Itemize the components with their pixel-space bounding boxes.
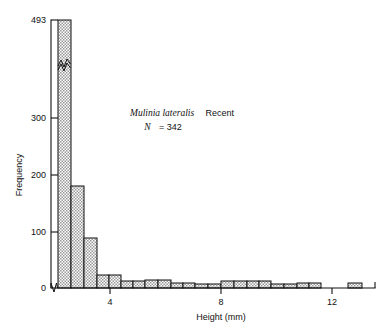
x-axis: 4 8 12 Height (mm)	[58, 282, 375, 322]
y-tick-label-493: 493	[31, 15, 46, 25]
annotation-species-line: Mulinia lateralis Recent	[129, 102, 235, 119]
bar	[195, 284, 208, 288]
chart-annotation: Mulinia lateralis Recent N = 342	[129, 102, 235, 133]
annotation-n-line: N = 342	[143, 116, 182, 133]
y-tick-label-200: 200	[31, 170, 46, 180]
y-axis: 0 100 200 300 493 Frequency	[14, 15, 58, 293]
bar	[259, 281, 271, 288]
y-tick-label-0: 0	[41, 283, 46, 293]
bar	[158, 280, 171, 288]
bar	[297, 283, 309, 288]
bar	[208, 284, 221, 288]
bar	[97, 275, 109, 288]
histogram-figure: 0 100 200 300 493 Frequency 4 8 12 Heigh…	[0, 0, 385, 325]
y-tick-label-300: 300	[31, 113, 46, 123]
bar	[309, 283, 321, 288]
bar	[221, 281, 234, 288]
bar	[171, 283, 183, 288]
y-axis-title: Frequency	[14, 153, 24, 196]
annotation-n-symbol: N	[143, 122, 151, 132]
x-tick-label-8: 8	[218, 297, 223, 307]
bar	[133, 281, 145, 288]
bars-group	[58, 20, 362, 288]
x-tick-label-12: 12	[327, 297, 337, 307]
annotation-age: Recent	[206, 108, 235, 118]
x-tick-label-4: 4	[107, 297, 112, 307]
annotation-n-value: = 342	[159, 122, 182, 132]
y-tick-label-100: 100	[31, 227, 46, 237]
bar	[109, 275, 121, 288]
bar	[183, 283, 195, 288]
bar	[84, 238, 97, 288]
chart-canvas: 0 100 200 300 493 Frequency 4 8 12 Heigh…	[0, 0, 385, 325]
x-axis-title: Height (mm)	[196, 312, 246, 322]
bar	[348, 283, 362, 288]
bar	[58, 20, 71, 288]
annotation-species-name: Mulinia lateralis	[129, 108, 194, 118]
bar	[121, 281, 133, 288]
bar	[71, 186, 84, 288]
bar	[271, 284, 284, 288]
bar	[247, 281, 259, 288]
bar	[145, 280, 158, 288]
bar	[234, 281, 247, 288]
bar	[284, 284, 297, 288]
